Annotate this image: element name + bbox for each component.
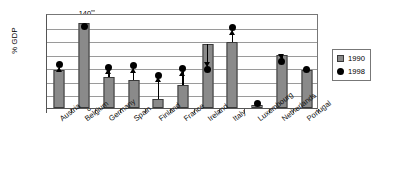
marker-1998	[204, 66, 211, 73]
marker-1998	[155, 72, 162, 79]
bar-1990	[153, 99, 164, 108]
bar-group	[195, 15, 220, 108]
legend-item-label: 1998	[348, 68, 365, 76]
bar-series-group	[47, 15, 317, 108]
bar-group	[146, 15, 171, 108]
y-axis-title: % GDP	[10, 11, 19, 71]
bar-group	[72, 15, 97, 108]
bar-1990	[54, 70, 65, 108]
x-axis-tick-mark	[46, 109, 47, 113]
legend-item-label: 1990	[348, 55, 365, 63]
x-axis-tick-label: Italy	[231, 107, 248, 123]
bar-1990	[227, 42, 238, 108]
y-axis-tick-mark	[91, 10, 95, 11]
bar-group	[121, 15, 146, 108]
gray-square-icon	[337, 55, 344, 62]
bar-group	[96, 15, 121, 108]
legend-item-1998: 1998	[337, 66, 365, 77]
legend-item-1990: 1990	[337, 53, 365, 64]
bar-group	[245, 15, 270, 108]
marker-1998	[81, 23, 88, 30]
legend: 1990 1998	[332, 49, 371, 81]
bar-group	[220, 15, 245, 108]
marker-1998	[254, 100, 261, 107]
chart-figure: % GDP 140120100806040200 AustriaBelgiumG…	[0, 0, 412, 171]
marker-1998	[303, 66, 310, 73]
bar-group	[47, 15, 72, 108]
bar-group	[171, 15, 196, 108]
plot-area	[46, 14, 318, 109]
bar-1990	[79, 23, 90, 108]
black-dot-icon	[337, 68, 344, 75]
marker-1998	[56, 61, 63, 68]
